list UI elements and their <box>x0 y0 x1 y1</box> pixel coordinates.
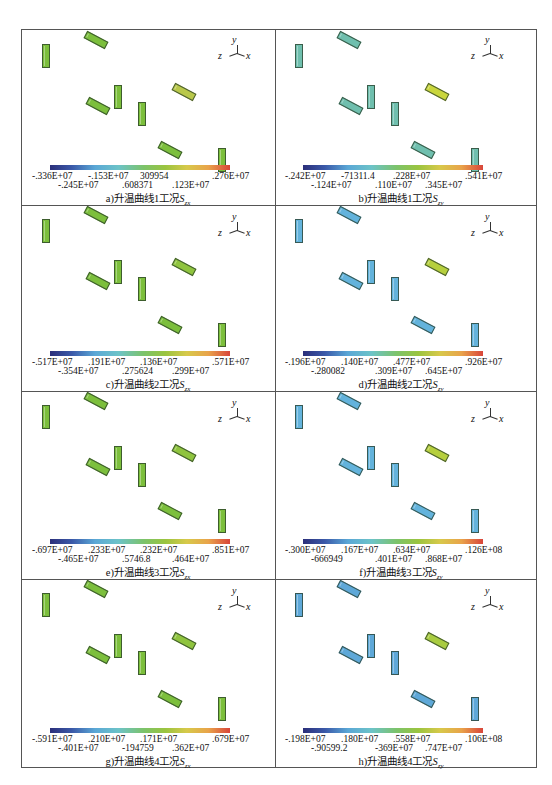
legend-tick: -.124E+07 <box>311 180 351 190</box>
legend-tick: .345E+07 <box>425 180 462 190</box>
panel-caption: h)升温曲线4工况Szy <box>275 753 527 770</box>
beam-block <box>86 646 111 664</box>
beam-block <box>84 392 109 410</box>
legend-tick: .275624 <box>122 366 153 376</box>
legend-tick: .126E+08 <box>465 545 502 555</box>
axis-triad-icon: y z x <box>471 34 511 66</box>
color-legend-bar <box>50 351 230 356</box>
legend-tick: .299E+07 <box>172 366 209 376</box>
beam-block <box>337 206 362 224</box>
color-legend-bar <box>50 165 230 170</box>
beam-block <box>337 392 362 410</box>
beam-block <box>138 463 146 487</box>
beam-block <box>295 405 303 429</box>
beam-block <box>411 141 436 159</box>
legend-tick: .276E+07 <box>212 171 249 181</box>
beam-block <box>218 697 226 721</box>
beam-block <box>42 405 50 429</box>
beam-block <box>425 444 450 462</box>
beam-block <box>391 102 399 126</box>
axis-triad-icon: y z x <box>471 211 511 243</box>
legend-tick: .140E+07 <box>341 357 378 367</box>
beam-block <box>411 690 436 708</box>
axis-triad-icon: y z x <box>218 211 258 243</box>
panel-c: y z x -.517E+07.191E+07.136E+07.571E+07-… <box>22 205 274 391</box>
beam-block <box>471 323 479 347</box>
legend-tick: -.401E+07 <box>58 743 98 753</box>
panel-h: y z x -.198E+07.180E+07.558E+07.106E+08-… <box>275 579 527 768</box>
beam-block <box>114 446 122 470</box>
beam-block <box>337 31 362 49</box>
legend-tick: .926E+07 <box>465 357 502 367</box>
axis-triad-icon: y z x <box>218 34 258 66</box>
beam-block <box>158 502 183 520</box>
beam-block <box>42 44 50 68</box>
legend-tick: .645E+07 <box>425 366 462 376</box>
beam-block <box>114 85 122 109</box>
axis-triad-icon: y z x <box>218 585 258 617</box>
beam-block <box>138 277 146 301</box>
beam-block <box>138 102 146 126</box>
beam-block <box>172 258 197 276</box>
beam-block <box>411 316 436 334</box>
beam-block <box>391 277 399 301</box>
legend-tick: -.90599.2 <box>311 743 347 753</box>
color-legend-bar <box>303 728 483 733</box>
legend-tick: -666949 <box>311 554 343 564</box>
beam-block <box>158 141 183 159</box>
beam-block <box>391 463 399 487</box>
beam-block <box>86 272 111 290</box>
beam-block <box>84 206 109 224</box>
beam-block <box>172 83 197 101</box>
beam-block <box>84 580 109 598</box>
beam-block <box>367 634 375 658</box>
panel-a: y z x -.336E+07-.153E+07309954.276E+07-.… <box>22 30 274 205</box>
axis-triad-icon: y z x <box>218 397 258 429</box>
beam-block <box>86 97 111 115</box>
beam-block <box>367 446 375 470</box>
beam-block <box>295 219 303 243</box>
legend-tick: .123E+07 <box>172 180 209 190</box>
beam-block <box>339 272 364 290</box>
beam-block <box>84 31 109 49</box>
legend-tick: .571E+07 <box>212 357 249 367</box>
legend-tick: -194759 <box>122 743 154 753</box>
legend-tick: .401E+07 <box>375 554 412 564</box>
beam-block <box>158 316 183 334</box>
legend-tick: -.245E+07 <box>58 180 98 190</box>
beam-block <box>425 258 450 276</box>
legend-tick: .5746.8 <box>122 554 151 564</box>
beam-block <box>114 260 122 284</box>
beam-block <box>218 323 226 347</box>
color-legend-bar <box>50 728 230 733</box>
panel-f: y z x -.300E+07.167E+07.634E+07.126E+08-… <box>275 391 527 579</box>
beam-block <box>158 690 183 708</box>
panel-caption: g)升温曲线4工况Szx <box>22 753 274 770</box>
beam-block <box>42 593 50 617</box>
beam-block <box>339 97 364 115</box>
beam-block <box>339 646 364 664</box>
legend-tick: .309E+07 <box>375 366 412 376</box>
legend-tick: .679E+07 <box>212 734 249 744</box>
legend-tick: .541E+07 <box>465 171 502 181</box>
beam-block <box>295 593 303 617</box>
beam-block <box>172 632 197 650</box>
legend-tick: .110E+07 <box>375 180 412 190</box>
beam-block <box>42 219 50 243</box>
beam-block <box>114 634 122 658</box>
panel-g: y z x -.591E+07.210E+07.171E+07.679E+07-… <box>22 579 274 768</box>
panel-b: y z x -.242E+07-71311.4.228E+07.541E+07-… <box>275 30 527 205</box>
beam-block <box>425 83 450 101</box>
legend-tick: -.465E+07 <box>58 554 98 564</box>
beam-block <box>391 651 399 675</box>
beam-block <box>471 697 479 721</box>
legend-tick: .851E+07 <box>212 545 249 555</box>
beam-block <box>337 580 362 598</box>
color-legend-bar <box>303 351 483 356</box>
panel-d: y z x -.196E+07.140E+07.477E+07.926E+07-… <box>275 205 527 391</box>
axis-triad-icon: y z x <box>471 397 511 429</box>
legend-tick: .167E+07 <box>341 545 378 555</box>
beam-block <box>172 444 197 462</box>
color-legend-bar <box>303 539 483 544</box>
beam-block <box>218 509 226 533</box>
